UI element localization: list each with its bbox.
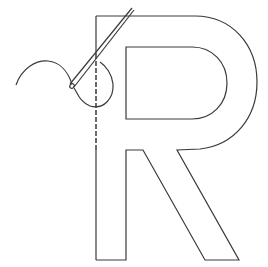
illustration-canvas: R — [0, 0, 268, 267]
sewn-letter-r-illustration — [0, 0, 268, 267]
letter-r-outer-outline — [96, 16, 257, 260]
needle-body-edge-a — [70, 8, 132, 84]
thread-arc-left — [16, 61, 72, 85]
letter-r-inner-counter — [126, 47, 227, 119]
thread-loop — [74, 62, 113, 107]
needle-body-edge-b — [74, 10, 134, 87]
